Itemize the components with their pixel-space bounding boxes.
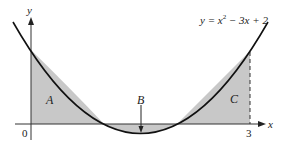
parabola-area-diagram: y x 0 3 A B C y = x2 − 3x + 2 [0,0,283,148]
region-c-shade [177,51,250,124]
origin-label: 0 [22,127,28,139]
y-axis-label: y [26,4,32,16]
x-axis-label: x [267,118,273,130]
y-axis-arrow-icon [28,17,34,25]
region-c-label: C [230,92,239,106]
region-b-label: B [137,93,145,107]
equation-label: y = x2 − 3x + 2 [199,13,268,26]
region-a-shade [31,50,104,124]
x3-tick-label: 3 [246,127,252,139]
x-axis-arrow-icon [258,121,266,127]
region-a-label: A [45,93,54,107]
